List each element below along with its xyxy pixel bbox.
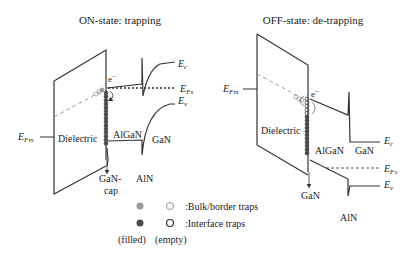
left-dielectric-label: Dielectric [58,133,98,144]
band-diagram: ON-state: trapping EFm Ec EFs e− Ev Diel… [0,0,414,253]
legend-filled-label: (filled) [118,234,146,246]
right-panel: OFF-state: de-trapping EFm Ec e− Ev EFs … [222,14,397,223]
left-efm-label: EFm [17,131,33,144]
left-bulk-traps [94,88,104,96]
right-valence-band [310,160,380,196]
left-gan-label: GaN [152,134,171,145]
left-gancap-label-2: cap [104,185,118,196]
left-panel-title: ON-state: trapping [79,14,162,26]
right-dashed-fermi [257,74,300,97]
right-dielectric-band [257,34,308,175]
left-aln-label: AlN [136,173,153,184]
right-ev-label: Ev [383,179,394,192]
left-panel: ON-state: trapping EFm Ec EFs e− Ev Diel… [17,14,193,196]
interface-trap-filled [305,151,309,155]
right-gan-bottom-label: GaN [301,190,320,201]
interface-trap-filled [104,142,108,146]
legend: :Bulk/border traps :Interface traps (fil… [118,201,258,246]
legend-bulk-empty-icon [167,203,174,210]
right-panel-title: OFF-state: de-trapping [263,14,364,26]
left-interface-traps [104,91,108,145]
right-ec-label: Ec [383,135,394,148]
legend-interface-filled-icon [137,220,144,227]
left-dashed-fermi [54,92,100,117]
right-algan-label: AlGaN [315,145,344,156]
legend-bulk-filled-icon [137,203,144,210]
right-efs-label: EFs [383,163,397,176]
right-conduction-band [310,92,380,142]
legend-interface-label: :Interface traps [185,218,245,229]
left-electron-label: e− [108,73,116,84]
right-gan-right-label: GaN [355,145,374,156]
left-conduction-band [107,58,175,96]
right-dielectric-label: Dielectric [261,125,301,136]
left-trapping-arrow [110,91,113,100]
right-detrap-arrow-2 [312,102,315,114]
right-efm-label: EFm [222,83,238,96]
legend-bulk-label: :Bulk/border traps [185,201,258,212]
right-electron-label: e− [311,88,319,99]
left-ev-label: Ev [177,95,188,108]
legend-interface-empty-icon [167,220,174,227]
left-gancap-label-1: GaN- [99,173,121,184]
left-ec-label: Ec [177,58,188,71]
right-bulk-traps [294,95,304,102]
right-aln-label: AlN [340,212,357,223]
legend-empty-label: (empty) [155,234,187,246]
left-algan-label: AlGaN [113,129,142,140]
